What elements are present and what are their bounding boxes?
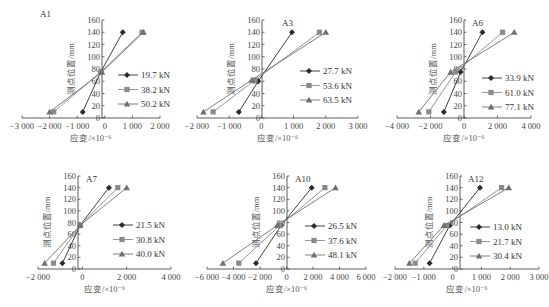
- x-tick-label: 6 000: [356, 272, 375, 282]
- y-axis-label: 测点位置/mm: [428, 43, 438, 95]
- y-tick-label: 40: [454, 89, 463, 99]
- chart-a6: −4 000−2 00002 0004 00002040608010012014…: [385, 15, 541, 143]
- y-axis-label: 测点位置/mm: [66, 43, 76, 95]
- triangle-marker-icon: [511, 29, 518, 35]
- y-tick-label: 80: [252, 64, 261, 74]
- legend-label: 26.5 kN: [328, 221, 358, 231]
- legend-label: 50.2 kN: [141, 99, 171, 109]
- legend-label: 40.0 kN: [136, 249, 166, 259]
- diamond-marker-icon: [59, 260, 65, 266]
- legend-label: 48.1 kN: [328, 250, 358, 260]
- y-tick-label: 140: [445, 183, 458, 193]
- legend-label: 37.6 kN: [328, 236, 358, 246]
- legend-diamond-icon: [488, 75, 494, 81]
- y-tick-label: 120: [87, 40, 100, 50]
- chart-title: A1: [40, 9, 51, 19]
- x-tick-label: −2 000: [419, 121, 443, 131]
- y-tick-label: 20: [454, 101, 463, 111]
- x-tick-label: −4 000: [385, 121, 409, 131]
- diamond-marker-icon: [479, 29, 485, 35]
- x-tick-label: 1 000: [123, 121, 142, 131]
- x-tick-label: 1 000: [284, 121, 303, 131]
- y-tick-label: 120: [449, 40, 462, 50]
- y-tick-label: 120: [247, 40, 260, 50]
- y-tick-label: 0: [281, 264, 285, 274]
- y-tick-label: 0: [96, 113, 100, 123]
- x-tick-label: 2 000: [303, 272, 322, 282]
- legend-diamond-icon: [124, 72, 130, 78]
- x-axis-label: 应变/×10⁻⁶: [266, 284, 307, 294]
- legend-label: 30.4 kN: [493, 251, 523, 261]
- legend-label: 33.9 kN: [505, 73, 535, 83]
- x-tick-label: 3 000: [529, 272, 548, 282]
- strain-distribution-charts: −3 000−2 000−1 00001 0002 00002040608010…: [0, 0, 549, 307]
- chart-title: A10: [295, 174, 311, 184]
- legend-square-icon: [306, 83, 311, 88]
- x-tick-label: 2 000: [316, 121, 335, 131]
- y-tick-label: 100: [445, 206, 458, 216]
- x-tick-label: −2 000: [383, 272, 407, 282]
- square-marker-icon: [51, 261, 56, 266]
- square-marker-icon: [236, 261, 241, 266]
- y-tick-label: 60: [92, 76, 101, 86]
- legend-label: 13.0 kN: [493, 222, 523, 232]
- y-tick-label: 140: [449, 27, 462, 37]
- x-tick-label: 0: [284, 272, 288, 282]
- legend-label: 19.7 kN: [141, 70, 171, 80]
- legend-square-icon: [124, 87, 129, 92]
- diamond-marker-icon: [289, 29, 295, 35]
- chart-title: A12: [468, 174, 484, 184]
- y-tick-label: 40: [277, 241, 286, 251]
- legend-diamond-icon: [311, 223, 317, 229]
- legend-label: 53.6 kN: [323, 81, 353, 91]
- x-tick-label: 4 000: [521, 121, 540, 131]
- square-marker-icon: [211, 109, 216, 114]
- x-tick-label: 2 000: [117, 272, 136, 282]
- y-tick-label: 20: [450, 252, 459, 262]
- diamond-marker-icon: [441, 109, 447, 115]
- y-tick-label: 60: [450, 229, 459, 239]
- y-axis-label: 测点位置/mm: [424, 196, 434, 248]
- y-tick-label: 160: [272, 171, 285, 181]
- legend-label: 63.5 kN: [323, 95, 353, 105]
- diamond-marker-icon: [120, 29, 126, 35]
- chart-a7: −2 00002 0004 000020406080100120140160A7…: [26, 171, 181, 294]
- y-tick-label: 140: [247, 27, 260, 37]
- chart-a10: −6 000−4 000−2 00002 0004 0006 000020406…: [195, 171, 376, 294]
- x-tick-label: −2 000: [26, 272, 50, 282]
- x-tick-label: 2 000: [150, 121, 169, 131]
- legend-diamond-icon: [476, 224, 482, 230]
- x-tick-label: 4 000: [161, 272, 180, 282]
- triangle-marker-icon: [323, 29, 330, 35]
- x-axis-label: 应变/×10⁻⁶: [443, 133, 484, 143]
- y-tick-label: 160: [63, 171, 76, 181]
- chart-title: A6: [472, 18, 483, 28]
- chart-a12: −2 000−1 00001 0002 0003 000020406080100…: [383, 171, 549, 294]
- square-marker-icon: [115, 185, 120, 190]
- y-axis-label: 测点位置/mm: [42, 196, 52, 248]
- y-tick-label: 120: [272, 194, 285, 204]
- y-tick-label: 160: [449, 15, 462, 25]
- chart-a3: −2 000−1 00001 0002 0003 000020406080100…: [185, 15, 368, 143]
- y-tick-label: 0: [256, 113, 260, 123]
- triangle-marker-icon: [200, 109, 207, 115]
- legend-label: 77.1 kN: [505, 102, 535, 112]
- y-tick-label: 120: [63, 194, 76, 204]
- square-marker-icon: [322, 185, 327, 190]
- y-tick-label: 20: [252, 101, 261, 111]
- x-axis-label: 应变/×10⁻⁶: [84, 284, 125, 294]
- x-tick-label: 3 000: [348, 121, 367, 131]
- y-tick-label: 100: [449, 52, 462, 62]
- x-tick-label: 4 000: [330, 272, 349, 282]
- y-tick-label: 20: [92, 101, 101, 111]
- diamond-marker-icon: [253, 260, 259, 266]
- legend-diamond-icon: [119, 222, 125, 228]
- y-axis-label: 测点位置/mm: [226, 43, 236, 95]
- y-tick-label: 100: [247, 52, 260, 62]
- square-marker-icon: [426, 109, 431, 114]
- x-tick-label: 2 000: [501, 272, 520, 282]
- x-tick-label: 1 000: [472, 272, 491, 282]
- chart-a1: −3 000−2 000−1 00001 0002 00002040608010…: [10, 9, 170, 143]
- x-tick-label: −1 000: [65, 121, 89, 131]
- diamond-marker-icon: [427, 260, 433, 266]
